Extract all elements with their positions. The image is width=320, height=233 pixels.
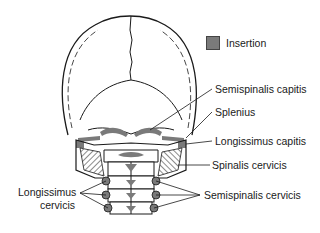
label-longissimus-cervicis-line1: Longissimus	[18, 186, 76, 198]
insertion-legend-swatch	[206, 36, 220, 50]
insertion-semispinalis-left	[100, 128, 128, 137]
leader-longissimus-capitis	[186, 141, 212, 144]
leader-semispinalis-cervicis-1	[156, 181, 200, 195]
skull-outline	[62, 16, 196, 135]
label-semispinalis-capitis: Semispinalis capitis	[215, 83, 307, 95]
label-longissimus-cervicis-line2: cervicis	[40, 199, 75, 211]
muscle-block-left	[80, 148, 104, 176]
muscle-block-right	[158, 148, 182, 176]
lambdoid-suture	[80, 80, 182, 120]
label-semispinalis-cervicis: Semispinalis cervicis	[204, 189, 301, 201]
cervical-spine	[102, 162, 160, 214]
sagittal-suture	[130, 16, 132, 80]
leader-semispinalis-cervicis-3	[154, 195, 200, 208]
leader-semispinalis-capitis	[150, 89, 212, 130]
label-longissimus-capitis: Longissimus capitis	[215, 135, 306, 147]
insertion-semispinalis-right	[134, 128, 162, 137]
label-splenius: Splenius	[215, 106, 255, 118]
label-spinalis-cervicis: Spinalis cervicis	[212, 159, 287, 171]
leader-longissimus-cervicis-1	[80, 181, 106, 193]
insertion-legend-label: Insertion	[226, 37, 266, 49]
